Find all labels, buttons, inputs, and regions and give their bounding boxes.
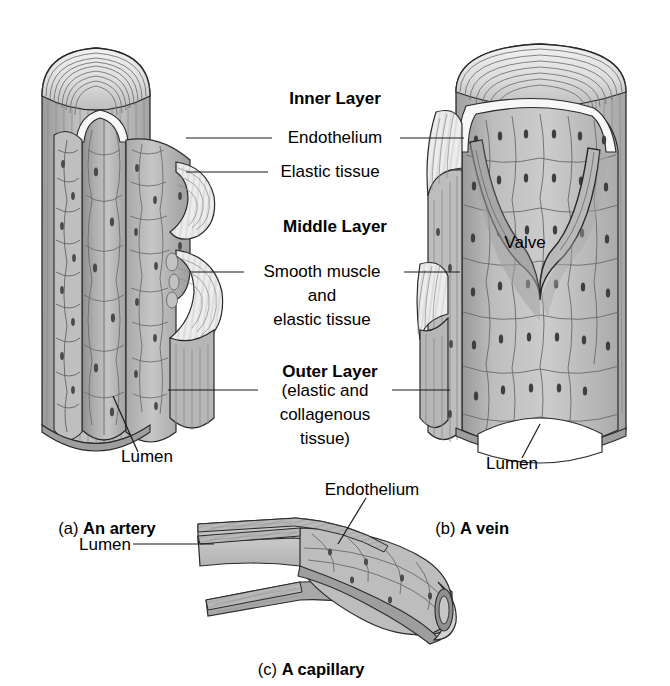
label-capillary-lumen: Lumen	[79, 536, 131, 553]
label-vein-valve: Valve	[504, 234, 545, 251]
label-smooth-muscle: Smooth muscle	[263, 263, 380, 280]
caption-artery-prefix: (a)	[58, 519, 78, 537]
caption-vein-prefix: (b)	[435, 519, 455, 537]
label-smooth-muscle-and: and	[308, 287, 336, 304]
label-capillary-endothelium: Endothelium	[325, 481, 420, 498]
label-middle-layer: Middle Layer	[283, 218, 387, 235]
blood-vessel-figure: Inner Layer Endothelium Elastic tissue M…	[0, 0, 670, 686]
label-vein-lumen: Lumen	[486, 455, 538, 472]
label-outer-layer-sub1: (elastic and	[282, 382, 369, 399]
label-outer-layer-sub3: tissue)	[300, 430, 350, 447]
label-elastic-tissue: Elastic tissue	[280, 163, 379, 180]
label-inner-layer: Inner Layer	[289, 90, 381, 107]
vein-illustration	[417, 44, 626, 463]
caption-capillary: (c) A capillary	[239, 644, 364, 686]
caption-artery-name: An artery	[83, 519, 155, 537]
caption-vein: (b) A vein	[417, 503, 509, 553]
label-smooth-muscle-elastic: elastic tissue	[273, 311, 370, 328]
caption-vein-name: A vein	[460, 519, 509, 537]
label-endothelium: Endothelium	[288, 129, 383, 146]
label-artery-lumen: Lumen	[121, 448, 173, 465]
label-outer-layer: Outer Layer	[282, 363, 377, 380]
caption-capillary-prefix: (c)	[258, 660, 277, 678]
label-outer-layer-sub2: collagenous	[280, 406, 371, 423]
caption-capillary-name: A capillary	[282, 660, 365, 678]
